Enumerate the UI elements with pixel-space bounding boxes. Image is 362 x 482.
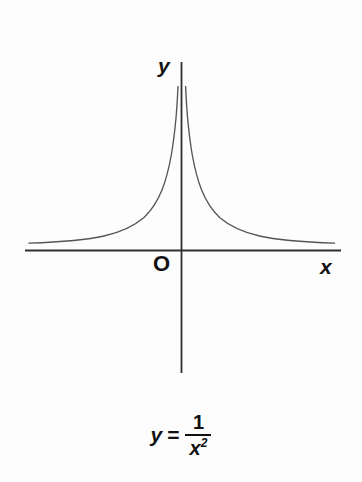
equation-left-variable: y [151, 423, 163, 447]
origin-label: O [153, 253, 170, 275]
equation-equals-sign: = [167, 423, 179, 447]
fraction-numerator: 1 [193, 412, 204, 434]
fraction-denominator: x2 [190, 436, 208, 458]
plot-canvas [0, 0, 362, 482]
fraction: 1 x2 [185, 412, 211, 458]
curve-right-branch [186, 87, 335, 244]
function-graph-figure: y x O y = 1 x2 [0, 0, 362, 482]
denominator-base: x [190, 437, 201, 459]
equation-caption: y = 1 x2 [0, 412, 362, 458]
y-axis-label: y [158, 55, 170, 76]
curve-left-branch [29, 87, 178, 244]
equation: y = 1 x2 [151, 412, 212, 458]
denominator-exponent: 2 [201, 436, 208, 450]
x-axis-label: x [320, 256, 332, 277]
